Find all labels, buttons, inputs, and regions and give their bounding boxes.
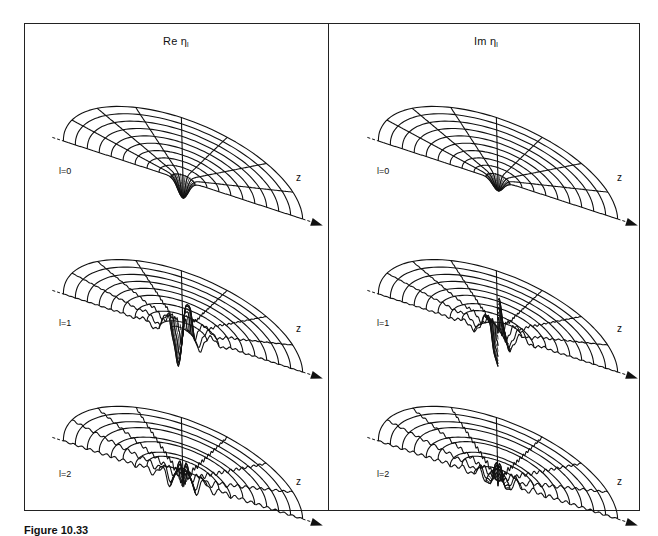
row-label-l2-im: l=2 [377,469,389,479]
column-title-im: Im ηl [474,35,498,48]
polar-mesh-surface [370,72,658,222]
column-title-re: Re ηl [163,35,189,48]
polar-mesh-surface [55,72,355,222]
row-label-l0-im: l=0 [377,166,389,176]
z-axis-arrow-icon [625,518,638,526]
plot-im-l2 [370,372,658,522]
z-axis-label: z [617,476,622,487]
row-label-l0: l=0 [59,166,71,176]
title-subscript: l [496,41,498,48]
z-axis-label: z [296,476,301,487]
z-axis-arrow-icon [310,518,323,526]
z-axis-label: z [617,323,622,334]
plot-re-l0 [55,72,355,222]
row-label-l1-im: l=1 [377,318,389,328]
polar-mesh-surface [55,225,355,375]
plot-re-l1 [55,225,355,375]
plot-re-l2 [55,372,355,522]
title-prefix: Im [474,35,490,47]
polar-mesh-surface [370,372,658,522]
title-subscript: l [187,41,189,48]
plot-im-l1 [370,225,658,375]
z-axis-label: z [617,172,622,183]
z-axis-label: z [296,172,301,183]
title-prefix: Re [163,35,181,47]
row-label-l1: l=1 [59,318,71,328]
z-axis-label: z [296,323,301,334]
figure-caption: Figure 10.33 [24,524,88,536]
row-label-l2: l=2 [59,469,71,479]
polar-mesh-surface [55,372,355,522]
plot-im-l0 [370,72,658,222]
polar-mesh-surface [370,225,658,375]
